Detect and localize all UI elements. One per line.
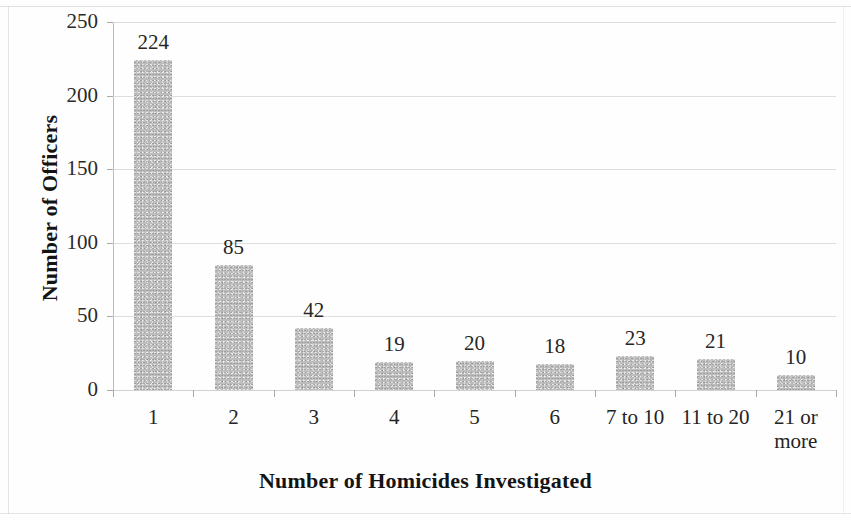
bar-value-label: 23	[595, 328, 675, 349]
x-axis-category-label: 7 to 10	[595, 406, 675, 430]
x-axis-tick	[595, 390, 596, 397]
bar	[375, 362, 413, 390]
gridline	[113, 390, 836, 391]
x-axis-category-label: 21 or more	[756, 406, 836, 453]
x-axis-tick	[675, 390, 676, 397]
bar	[295, 328, 333, 390]
x-axis-tick	[354, 390, 355, 397]
x-axis-category-label: 6	[515, 406, 595, 430]
bar-value-label: 18	[515, 336, 595, 357]
bar-value-label: 85	[193, 237, 273, 258]
bar-value-label: 19	[354, 334, 434, 355]
x-axis-category-label: 3	[274, 406, 354, 430]
x-axis-category-label: 11 to 20	[675, 406, 755, 430]
x-axis-tick	[515, 390, 516, 397]
x-axis-tick	[836, 390, 837, 397]
gridline	[113, 96, 836, 97]
gridline	[113, 22, 836, 23]
y-axis-title: Number of Officers	[37, 98, 63, 318]
bar-value-label: 20	[434, 333, 514, 354]
x-axis-tick	[113, 390, 114, 397]
bar	[456, 361, 494, 390]
bar	[616, 356, 654, 390]
x-axis-category-label: 1	[113, 406, 193, 430]
page-frame-left-border	[8, 6, 9, 514]
gridline	[113, 169, 836, 170]
x-axis-tick	[434, 390, 435, 397]
plot-area: 2248542192018232110	[113, 22, 836, 390]
x-axis-category-label: 4	[354, 406, 434, 430]
x-axis-tick	[193, 390, 194, 397]
bar-value-label: 10	[756, 347, 836, 368]
bar	[536, 364, 574, 390]
page-frame-right-border	[843, 6, 844, 514]
bar	[777, 375, 815, 390]
bar	[134, 60, 172, 390]
bar-value-label: 224	[113, 32, 193, 53]
bar	[697, 359, 735, 390]
bar-value-label: 21	[675, 331, 755, 352]
chart-figure: 050100150200250 2248542192018232110 1234…	[0, 0, 851, 520]
x-axis-tick	[756, 390, 757, 397]
y-axis-tick-label: 250	[36, 11, 98, 32]
x-axis-tick	[274, 390, 275, 397]
bar-value-label: 42	[274, 300, 354, 321]
page-frame-top-border	[0, 6, 851, 7]
x-axis-title: Number of Homicides Investigated	[0, 468, 851, 494]
y-axis-tick-label: 0	[36, 379, 98, 400]
bar	[215, 265, 253, 390]
x-axis-category-label: 2	[193, 406, 273, 430]
x-axis-category-label: 5	[434, 406, 514, 430]
page-frame-bottom-border	[0, 513, 851, 514]
